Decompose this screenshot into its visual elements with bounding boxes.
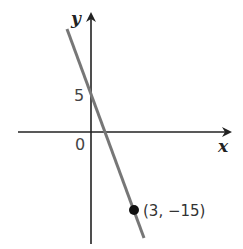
x-axis-label: x xyxy=(217,136,229,156)
point-label: (3, −15) xyxy=(143,202,205,220)
line-graph: y x 0 5 (3, −15) xyxy=(0,0,243,249)
point-marker xyxy=(129,205,139,215)
y-tick-label-5: 5 xyxy=(74,86,84,105)
origin-label: 0 xyxy=(75,135,85,154)
y-axis-label: y xyxy=(70,8,82,28)
